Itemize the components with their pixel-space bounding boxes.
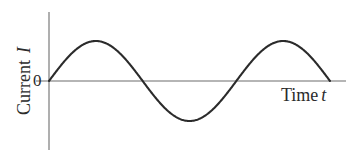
y-axis-label: CurrentI <box>15 21 33 141</box>
x-axis-label-word: Time <box>281 85 318 105</box>
waveform-plot <box>0 0 360 156</box>
x-axis-label-symbol: t <box>318 85 326 105</box>
y-axis-label-symbol: I <box>14 47 34 60</box>
ac-current-waveform-figure: 0 Timet CurrentI <box>0 0 360 156</box>
origin-zero-label: 0 <box>33 72 42 89</box>
y-axis-label-word: Current <box>14 60 34 115</box>
x-axis-label: Timet <box>281 86 326 104</box>
